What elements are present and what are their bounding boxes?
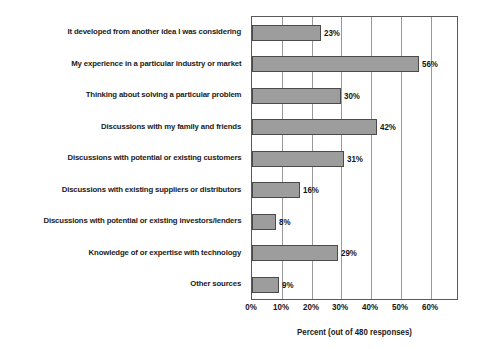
x-axis-tick-labels: 0% 10% 20% 30% 40% 50% 60% bbox=[251, 302, 458, 316]
category-label: It developed from another idea I was con… bbox=[68, 27, 246, 36]
bar bbox=[252, 151, 344, 167]
bar-row: 56% bbox=[252, 49, 457, 81]
bar bbox=[252, 88, 341, 104]
category-label: Knowledge of or expertise with technolog… bbox=[89, 248, 246, 257]
category-label: Discussions with potential or existing c… bbox=[67, 153, 246, 162]
x-tick-label: 20% bbox=[303, 302, 319, 312]
category-label-row: Discussions with existing suppliers or d… bbox=[0, 174, 246, 206]
bar-row: 23% bbox=[252, 17, 457, 49]
bar-value-label: 8% bbox=[279, 217, 291, 227]
bar bbox=[252, 214, 276, 230]
category-label-row: Knowledge of or expertise with technolog… bbox=[0, 237, 246, 269]
bar-value-label: 56% bbox=[422, 59, 438, 69]
category-label-row: Discussions with potential or existing c… bbox=[0, 142, 246, 174]
category-label-row: Thinking about solving a particular prob… bbox=[0, 79, 246, 111]
bar-value-label: 30% bbox=[344, 91, 360, 101]
category-axis-labels: It developed from another idea I was con… bbox=[0, 16, 246, 300]
x-tick-label: 10% bbox=[273, 302, 289, 312]
x-tick-label: 30% bbox=[332, 302, 348, 312]
bar-chart: It developed from another idea I was con… bbox=[0, 0, 486, 349]
category-label: Discussions with potential or existing i… bbox=[43, 216, 246, 225]
bar-row: 30% bbox=[252, 80, 457, 112]
x-axis-title: Percent (out of 480 responses) bbox=[255, 328, 454, 337]
bar bbox=[252, 119, 377, 135]
bar-value-label: 31% bbox=[347, 154, 363, 164]
category-label: Other sources bbox=[190, 279, 246, 288]
bar bbox=[252, 182, 300, 198]
bar-row: 29% bbox=[252, 238, 457, 270]
category-label-row: My experience in a particular industry o… bbox=[0, 48, 246, 80]
x-tick-label: 0% bbox=[245, 302, 257, 312]
category-label: My experience in a particular industry o… bbox=[71, 59, 246, 68]
bar-value-label: 42% bbox=[380, 122, 396, 132]
category-label: Discussions with my family and friends bbox=[101, 122, 246, 131]
bar-row: 8% bbox=[252, 206, 457, 238]
category-label-row: It developed from another idea I was con… bbox=[0, 16, 246, 48]
bar-row: 31% bbox=[252, 143, 457, 175]
category-label-row: Discussions with my family and friends bbox=[0, 111, 246, 143]
bar-value-label: 9% bbox=[282, 280, 294, 290]
plot-area: 23% 56% 30% 42% 31% 16% bbox=[251, 16, 458, 300]
bar bbox=[252, 245, 338, 261]
category-label: Discussions with existing suppliers or d… bbox=[62, 185, 246, 194]
x-tick-label: 40% bbox=[362, 302, 378, 312]
bar bbox=[252, 25, 321, 41]
category-label-row: Other sources bbox=[0, 268, 246, 300]
category-label-row: Discussions with potential or existing i… bbox=[0, 205, 246, 237]
bar bbox=[252, 56, 419, 72]
x-tick-label: 60% bbox=[422, 302, 438, 312]
x-tick-label: 50% bbox=[392, 302, 408, 312]
bar-value-label: 29% bbox=[341, 248, 357, 258]
bars-layer: 23% 56% 30% 42% 31% 16% bbox=[252, 17, 457, 299]
category-label: Thinking about solving a particular prob… bbox=[86, 90, 247, 99]
bar-row: 9% bbox=[252, 269, 457, 301]
bar-row: 42% bbox=[252, 112, 457, 144]
bar bbox=[252, 277, 279, 293]
bar-row: 16% bbox=[252, 175, 457, 207]
bar-value-label: 16% bbox=[303, 185, 319, 195]
bar-value-label: 23% bbox=[324, 28, 340, 38]
